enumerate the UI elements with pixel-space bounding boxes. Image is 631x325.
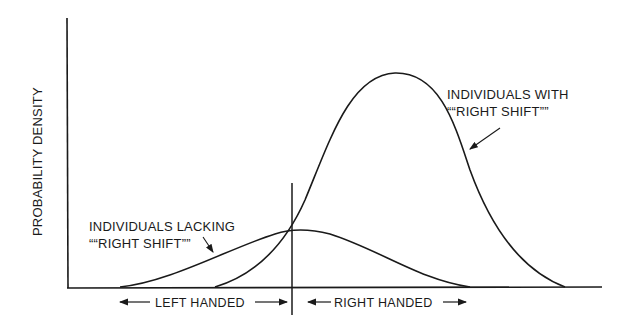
y-axis: [67, 18, 68, 288]
pointer-arrow-with-icon: [470, 128, 500, 149]
region-left-handed: LEFT HANDED: [155, 296, 245, 310]
region-right-handed: RIGHT HANDED: [334, 296, 433, 310]
handedness-distribution-diagram: PROBABILITY DENSITY INDIVIDUALS LACKING …: [0, 0, 631, 325]
label-lacking-line1: INDIVIDUALS LACKING: [89, 219, 235, 234]
y-axis-label: PROBABILITY DENSITY: [30, 87, 45, 236]
label-with-line1: INDIVIDUALS WITH: [447, 87, 569, 102]
label-lacking-line2: ““RIGHT SHIFT””: [89, 236, 191, 251]
x-axis: [67, 287, 602, 288]
pointer-arrow-lacking-icon: [203, 237, 213, 252]
label-with-line2: ““RIGHT SHIFT””: [447, 104, 549, 119]
